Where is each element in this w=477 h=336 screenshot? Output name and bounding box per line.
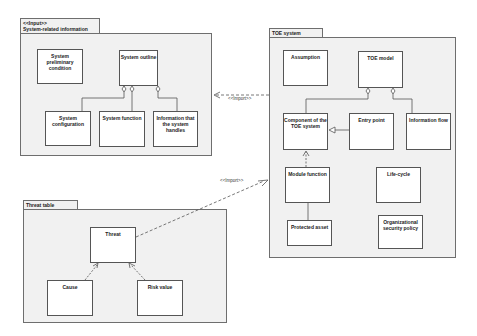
aggregation-diamond-icon [366, 88, 370, 94]
aggregation-diamond-icon [130, 86, 134, 92]
relationship-lines [0, 0, 477, 336]
generalization-arrow-icon [329, 127, 335, 133]
dependency-arrow-icon [93, 263, 98, 268]
import-label: <<Import>> [228, 96, 251, 101]
aggregation-diamond-icon [122, 86, 126, 92]
import-arrow-icon [258, 180, 268, 186]
aggregation-diamond-icon [391, 88, 395, 94]
diagram-canvas: <<Input>> System-related information Sys… [0, 0, 477, 336]
import-label: <<Import>> [220, 178, 243, 183]
aggregation-diamond-icon [156, 86, 160, 92]
